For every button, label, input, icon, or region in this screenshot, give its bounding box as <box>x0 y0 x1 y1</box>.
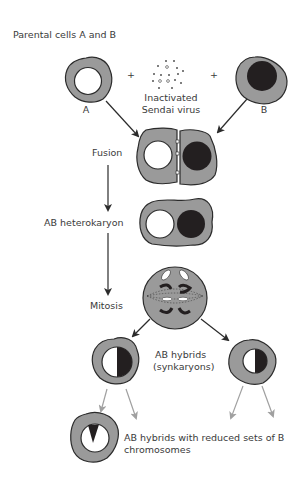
arrow-mitosis-to-hybrid-left <box>133 319 150 336</box>
nucleus-a <box>75 68 102 95</box>
plus-sign-2: + <box>210 69 216 80</box>
diagram-title: Parental cells A and B <box>13 29 116 40</box>
arrow-mitosis-to-hybrid-right <box>201 319 228 340</box>
plus-sign-1: + <box>127 69 133 80</box>
parental-cell-b <box>236 57 287 104</box>
cell-fusion-diagram <box>0 0 307 488</box>
ab-heterokaryon <box>140 199 213 246</box>
nucleus-b <box>247 61 277 91</box>
hybrids-label-line2: (synkaryons) <box>153 361 214 372</box>
arrow-reduce-2 <box>126 389 136 418</box>
step-mitosis-label: Mitosis <box>90 300 123 311</box>
arrow-b-to-fusion <box>218 99 247 132</box>
virus-label-line2: Sendai virus <box>136 104 206 115</box>
arrow-reduce-4 <box>262 386 273 416</box>
reduced-hybrids-label-line2: chromosomes <box>124 444 191 455</box>
step-fusion-label: Fusion <box>92 147 122 158</box>
reduced-hybrids-label-line1: AB hybrids with reduced sets of B <box>124 432 284 443</box>
hybrid-cell-left <box>92 338 138 384</box>
arrow-reduce-3 <box>231 386 243 418</box>
arrow-reduce-1 <box>101 389 107 411</box>
reduced-hybrid-cell <box>71 413 119 463</box>
hybrid-cell-right <box>229 340 276 385</box>
cell-b-label: B <box>258 104 270 115</box>
fusing-cells <box>137 128 217 185</box>
virus-label-line1: Inactivated <box>136 92 206 103</box>
sendai-virus-particles <box>152 60 184 89</box>
step-heterokaryon-label: AB heterokaryon <box>44 217 124 228</box>
mitotic-cell <box>143 267 207 329</box>
arrow-a-to-fusion <box>106 101 138 136</box>
cell-a-label: A <box>80 104 92 115</box>
parental-cell-a <box>65 57 111 102</box>
hybrids-label-line1: AB hybrids <box>155 349 206 360</box>
